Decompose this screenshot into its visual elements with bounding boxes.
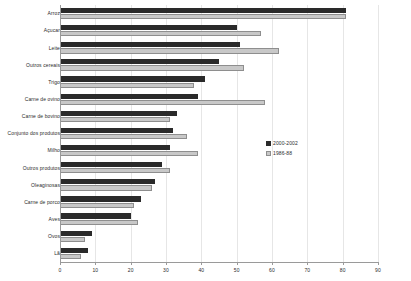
category-label: Carne de bovino [0, 113, 60, 119]
bar-older [60, 254, 81, 259]
bar-recent [60, 128, 173, 133]
x-tick-label: 90 [366, 267, 390, 273]
bar-older [60, 151, 198, 156]
x-tick-mark [60, 262, 61, 265]
chart-category-row: Aves [60, 211, 378, 228]
category-label: Oleaginosas [0, 182, 60, 188]
category-label: Outros cereais [0, 62, 60, 68]
chart-category-row: Ovos [60, 228, 378, 245]
bar-recent [60, 94, 198, 99]
bar-recent [60, 145, 170, 150]
x-tick-label: 70 [295, 267, 319, 273]
bar-chart: ArrozAçucarLeiteOutros cereaisTrigoCarne… [0, 0, 411, 281]
bar-recent [60, 25, 237, 30]
bar-older [60, 220, 138, 225]
bar-recent [60, 42, 240, 47]
bar-older [60, 14, 346, 19]
legend-label-older: 1986-88 [273, 150, 292, 156]
x-tick-mark [343, 262, 344, 265]
bar-recent [60, 162, 162, 167]
chart-category-row: Oleaginosas [60, 176, 378, 193]
bar-recent [60, 59, 219, 64]
bar-older [60, 83, 194, 88]
chart-category-row: Lã [60, 245, 378, 262]
chart-category-row: Carne de ovino [60, 91, 378, 108]
bar-older [60, 203, 134, 208]
chart-legend: 2000-2002 1986-88 [266, 139, 298, 159]
chart-category-row: Milho [60, 142, 378, 159]
category-label: Leite [0, 45, 60, 51]
bar-recent [60, 76, 205, 81]
x-tick-mark [166, 262, 167, 265]
category-label: Arroz [0, 10, 60, 16]
x-tick-mark [131, 262, 132, 265]
x-tick-label: 20 [119, 267, 143, 273]
bar-older [60, 100, 265, 105]
bar-recent [60, 179, 155, 184]
bar-older [60, 31, 261, 36]
legend-item-recent: 2000-2002 [266, 139, 298, 147]
category-label: Trigo [0, 79, 60, 85]
chart-category-row: Carne de bovino [60, 108, 378, 125]
chart-category-row: Carne de porco [60, 193, 378, 210]
chart-category-row: Açucar [60, 22, 378, 39]
category-label: Outros produtos [0, 165, 60, 171]
x-tick-mark [307, 262, 308, 265]
chart-category-row: Arroz [60, 5, 378, 22]
bar-recent [60, 231, 92, 236]
x-tick-label: 0 [48, 267, 72, 273]
x-tick-mark [201, 262, 202, 265]
x-tick-label: 80 [331, 267, 355, 273]
bar-older [60, 48, 279, 53]
bar-recent [60, 196, 141, 201]
category-label: Aves [0, 216, 60, 222]
bar-recent [60, 213, 131, 218]
bar-older [60, 237, 85, 242]
category-label: Carne de porco [0, 199, 60, 205]
chart-category-row: Conjunto dos produtos [60, 125, 378, 142]
legend-label-recent: 2000-2002 [273, 140, 298, 146]
x-tick-label: 30 [154, 267, 178, 273]
bar-recent [60, 248, 88, 253]
bar-recent [60, 111, 177, 116]
x-tick-label: 50 [225, 267, 249, 273]
legend-swatch-older-icon [266, 151, 271, 156]
chart-category-row: Outros cereais [60, 56, 378, 73]
bar-older [60, 168, 170, 173]
bar-older [60, 185, 152, 190]
chart-category-row: Leite [60, 39, 378, 56]
category-label: Conjunto dos produtos [0, 130, 60, 136]
bar-older [60, 134, 187, 139]
x-tick-label: 60 [260, 267, 284, 273]
category-label: Açucar [0, 27, 60, 33]
plot-area: ArrozAçucarLeiteOutros cereaisTrigoCarne… [60, 5, 378, 262]
x-axis-line [60, 262, 378, 263]
x-tick-mark [237, 262, 238, 265]
bar-recent [60, 8, 346, 13]
legend-item-older: 1986-88 [266, 149, 298, 157]
gridline [378, 5, 379, 262]
x-tick-mark [272, 262, 273, 265]
bar-older [60, 117, 170, 122]
x-tick-mark [378, 262, 379, 265]
chart-category-row: Trigo [60, 74, 378, 91]
x-tick-mark [95, 262, 96, 265]
category-label: Lã [0, 250, 60, 256]
x-tick-label: 40 [189, 267, 213, 273]
category-label: Milho [0, 147, 60, 153]
category-label: Ovos [0, 233, 60, 239]
category-label: Carne de ovino [0, 96, 60, 102]
bar-older [60, 65, 244, 70]
legend-swatch-recent-icon [266, 141, 271, 146]
y-axis-line [60, 5, 61, 262]
chart-category-row: Outros produtos [60, 159, 378, 176]
x-tick-label: 10 [83, 267, 107, 273]
